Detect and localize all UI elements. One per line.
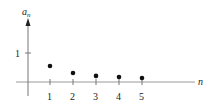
- data-point: [117, 75, 122, 80]
- data-point: [71, 71, 76, 76]
- x-tick-label: 5: [139, 91, 144, 102]
- sequence-plot: an n 1 12345: [0, 0, 216, 108]
- x-tick-label: 1: [47, 91, 52, 102]
- data-point: [140, 76, 145, 81]
- data-point: [48, 64, 53, 69]
- x-tick-label: 4: [116, 91, 121, 102]
- x-axis-label: n: [198, 76, 203, 87]
- x-tick-label: 2: [70, 91, 75, 102]
- x-tick-label: 3: [93, 91, 98, 102]
- data-point: [94, 74, 99, 79]
- y-tick-label: 1: [15, 48, 20, 59]
- y-axis-arrow-icon: [26, 18, 31, 26]
- y-axis-label: an: [22, 6, 31, 19]
